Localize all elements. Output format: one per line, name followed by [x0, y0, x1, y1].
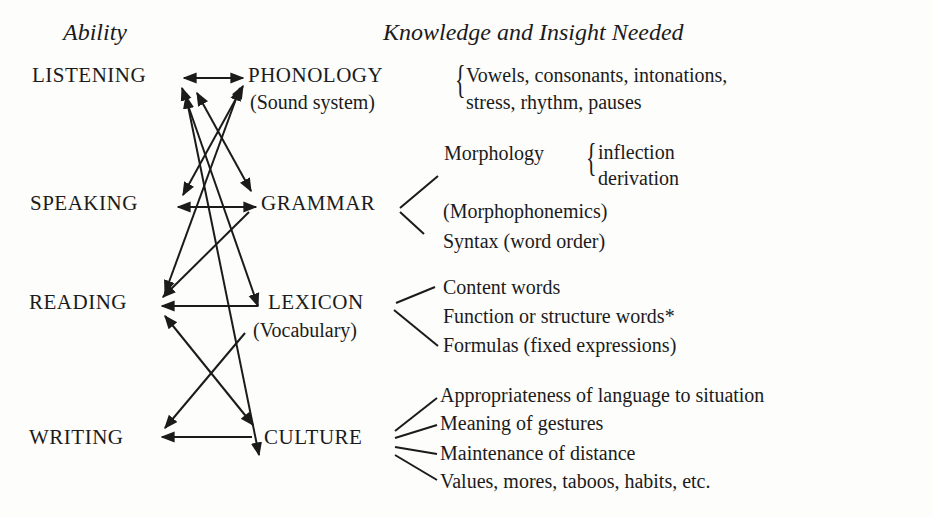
node-writing: WRITING	[29, 427, 123, 448]
arrow-cross-3	[163, 212, 249, 297]
node-lexicon: LEXICON	[268, 292, 364, 313]
arrow-cross-2	[197, 93, 251, 191]
morphology-brace: {	[586, 138, 597, 178]
lexicon-content-words: Content words	[443, 277, 560, 297]
branch-culture-values	[395, 455, 437, 480]
node-speaking: SPEAKING	[30, 193, 138, 214]
grammar-morphology: Morphology	[444, 143, 544, 163]
arrow-cross-6	[186, 96, 259, 455]
grammar-syntax: Syntax (word order)	[443, 231, 605, 251]
node-phonology: PHONOLOGY	[248, 65, 383, 86]
arrow-cross-1	[183, 86, 243, 195]
arrow-cross-5	[182, 88, 258, 306]
lexicon-function-words: Function or structure words*	[443, 306, 675, 326]
branch-grammar-morphology	[400, 176, 438, 208]
node-reading: READING	[29, 292, 127, 313]
branch-grammar-syntax	[400, 212, 424, 234]
culture-distance: Maintenance of distance	[440, 443, 635, 463]
arrow-cross-4	[165, 88, 240, 293]
node-phonology-sub: (Sound system)	[250, 92, 375, 112]
phonology-detail-line-2: stress, rhythm, pauses	[466, 92, 642, 112]
language-skills-diagram: Ability Knowledge and Insight Needed LIS…	[0, 0, 933, 517]
grammar-morphophonemics: (Morphophonemics)	[443, 201, 607, 221]
node-lexicon-sub: (Vocabulary)	[253, 320, 357, 340]
ability-column-header: Ability	[63, 20, 127, 44]
node-culture: CULTURE	[264, 427, 362, 448]
morphology-inflection: inflection	[598, 142, 675, 162]
culture-values: Values, mores, taboos, habits, etc.	[440, 471, 711, 491]
lexicon-formulas: Formulas (fixed expressions)	[443, 335, 676, 355]
arrow-cross-8	[165, 333, 245, 428]
phonology-detail-line-1: Vowels, consonants, intonations,	[466, 65, 727, 85]
knowledge-column-header: Knowledge and Insight Needed	[383, 20, 684, 44]
branch-lexicon-content	[396, 287, 435, 303]
morphology-derivation: derivation	[598, 168, 679, 188]
node-grammar: GRAMMAR	[261, 193, 375, 214]
culture-appropriateness: Appropriateness of language to situation	[440, 385, 764, 405]
branch-lexicon-formulas	[394, 310, 438, 346]
branch-culture-distance	[395, 447, 437, 454]
branch-culture-appropriateness	[395, 398, 437, 431]
arrow-cross-7	[165, 316, 253, 425]
branch-culture-gestures	[395, 425, 437, 438]
culture-gestures: Meaning of gestures	[440, 413, 603, 433]
node-listening: LISTENING	[32, 65, 146, 86]
phonology-brace: {	[455, 60, 466, 100]
